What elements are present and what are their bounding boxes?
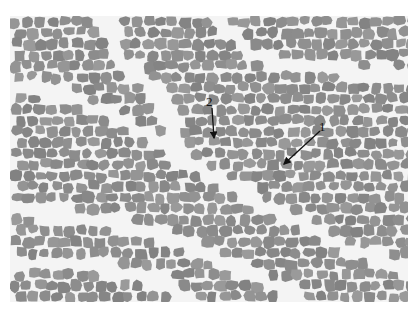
annotation-label-1: 1 <box>319 120 326 133</box>
fiber-pattern <box>10 16 408 302</box>
annotation-label-2: 2 <box>206 95 213 108</box>
muscle-micrograph <box>10 16 408 302</box>
